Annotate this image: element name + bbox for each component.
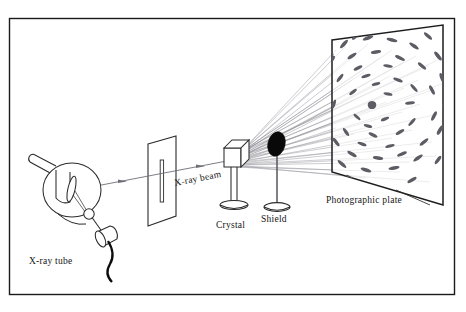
- label-photographic-plate: Photographic plate: [326, 195, 402, 205]
- collimator-slit: [160, 160, 163, 202]
- label-crystal: Crystal: [216, 220, 245, 230]
- diagram-svg: X-ray tube X-ray beam Crystal Shield Pho…: [0, 0, 466, 312]
- center-spot: [368, 101, 377, 109]
- label-shield: Shield: [261, 214, 287, 224]
- collimator-plate: [148, 136, 176, 226]
- figure-canvas: X-ray tube X-ray beam Crystal Shield Pho…: [0, 0, 466, 312]
- label-x-ray-tube: X-ray tube: [29, 256, 72, 266]
